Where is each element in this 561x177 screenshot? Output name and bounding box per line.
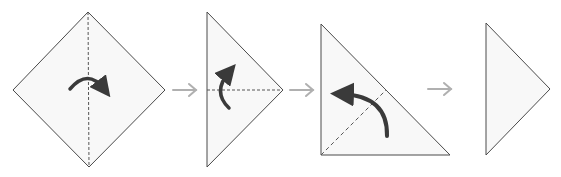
step-arrow-icon: [428, 83, 451, 95]
step-4-triangle: [486, 23, 550, 155]
step-2-triangle: [207, 12, 283, 167]
fold-diagram: [0, 0, 561, 177]
step-arrow-icon: [173, 84, 196, 96]
step-arrow-icon: [290, 84, 313, 96]
step-1-diamond: [13, 12, 165, 167]
